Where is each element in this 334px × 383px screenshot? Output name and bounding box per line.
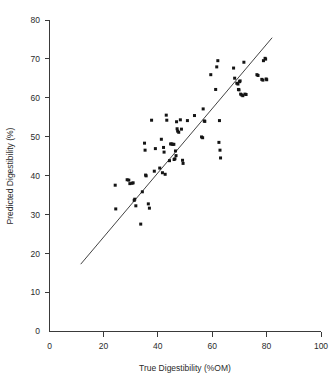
data-point xyxy=(145,174,148,177)
data-point xyxy=(132,181,135,184)
y-tick-label-50: 50 xyxy=(31,132,41,142)
y-axis-title: Predicted Digestibility (%) xyxy=(5,127,15,224)
data-point xyxy=(238,88,241,91)
data-point xyxy=(148,207,151,210)
x-axis-title: True Digestibility (%OM) xyxy=(139,363,231,373)
x-axis-ticks xyxy=(103,332,321,337)
data-point xyxy=(172,143,175,146)
data-point xyxy=(143,142,146,145)
data-point xyxy=(164,173,167,176)
y-tick-label-80: 80 xyxy=(31,15,41,25)
data-point xyxy=(261,79,264,82)
data-point xyxy=(144,149,147,152)
data-point xyxy=(186,119,189,122)
data-point xyxy=(216,59,219,62)
data-point xyxy=(181,159,184,162)
plot-axes xyxy=(50,20,322,332)
y-tick-label-70: 70 xyxy=(31,54,41,64)
data-point xyxy=(180,128,183,131)
data-point xyxy=(215,65,218,68)
data-point xyxy=(193,114,196,117)
y-tick-label-30: 30 xyxy=(31,210,41,220)
data-point xyxy=(150,119,153,122)
data-point xyxy=(141,190,144,193)
data-point xyxy=(202,107,205,110)
y-tick-label-40: 40 xyxy=(31,171,41,181)
data-point xyxy=(232,67,235,70)
data-point xyxy=(127,179,130,182)
x-tick-label-0: 0 xyxy=(47,341,52,351)
scatter-points-layer xyxy=(114,57,269,226)
data-point xyxy=(161,171,164,174)
data-point xyxy=(158,167,161,170)
data-point xyxy=(218,119,221,122)
data-point xyxy=(153,170,156,173)
data-point xyxy=(163,151,166,154)
data-point xyxy=(165,119,168,122)
data-point xyxy=(175,154,178,157)
data-point xyxy=(217,141,220,144)
data-point xyxy=(174,149,177,152)
x-tick-label-80: 80 xyxy=(262,341,272,351)
y-tick-label-10: 10 xyxy=(31,287,41,297)
data-point xyxy=(160,138,163,141)
data-point xyxy=(257,74,260,77)
data-point xyxy=(265,78,268,81)
chart-figure: 80 70 60 50 40 30 20 10 0 0 20 40 60 80 … xyxy=(0,0,334,383)
y-tick-label-60: 60 xyxy=(31,93,41,103)
data-point xyxy=(162,146,165,149)
data-point xyxy=(214,88,217,91)
data-point xyxy=(203,120,206,123)
y-axis-ticks xyxy=(45,20,50,292)
x-tick-label-20: 20 xyxy=(99,341,109,351)
data-point xyxy=(245,93,248,96)
data-point xyxy=(173,157,176,160)
data-point xyxy=(147,202,150,205)
data-point xyxy=(264,58,267,61)
data-point xyxy=(179,118,182,121)
data-point xyxy=(233,77,236,80)
data-point xyxy=(219,156,222,159)
data-point xyxy=(133,198,136,201)
y-tick-label-20: 20 xyxy=(31,249,41,259)
data-point xyxy=(177,131,180,134)
data-point xyxy=(209,73,212,76)
data-point xyxy=(219,149,222,152)
x-tick-label-40: 40 xyxy=(153,341,163,351)
data-point xyxy=(175,120,178,123)
data-point xyxy=(182,162,185,165)
x-tick-label-60: 60 xyxy=(207,341,217,351)
scatter-plot: 80 70 60 50 40 30 20 10 0 0 20 40 60 80 … xyxy=(0,0,334,383)
data-point xyxy=(134,204,137,207)
data-point xyxy=(168,159,171,162)
data-point xyxy=(165,114,168,117)
x-tick-label-100: 100 xyxy=(314,341,328,351)
data-point xyxy=(242,61,245,64)
data-point xyxy=(154,147,157,150)
data-point xyxy=(114,207,117,210)
data-point xyxy=(239,79,242,82)
data-point xyxy=(114,184,117,187)
y-tick-label-0: 0 xyxy=(35,326,40,336)
data-point xyxy=(201,136,204,139)
data-point xyxy=(139,223,142,226)
